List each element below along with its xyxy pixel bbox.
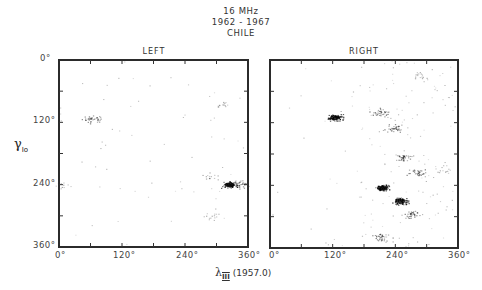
x-axis-subscript: III [222,273,230,281]
right-x-tick-360: 360° [448,250,470,260]
right-x-tick-120: 120° [324,250,346,260]
x-axis-symbol: λ [215,266,222,279]
left-x-tick-0: 0° [55,250,66,260]
left-x-tick-120: 120° [113,250,135,260]
right-panel-data [272,61,455,249]
right-x-tick-240: 240° [386,250,408,260]
y-axis-subscript: Io [22,146,28,154]
right-x-tick-0: 0° [269,250,280,260]
x-axis-label: λIII (1957.0) [215,266,271,281]
left-panel-data [53,61,249,247]
left-panel-frame [59,60,248,247]
left-x-tick-360: 360° [238,250,260,260]
y-tick-0: 0° [40,53,51,63]
y-tick-120: 120° [33,115,55,125]
y-axis-symbol: γ [14,136,22,151]
left-x-tick-240: 240° [176,250,198,260]
plot-canvas [0,0,482,290]
y-tick-240: 240° [33,178,55,188]
y-tick-360: 360° [33,240,55,250]
x-axis-epoch: (1957.0) [233,268,272,278]
axis-ticks [59,60,458,248]
y-axis-label: γIo [14,136,28,154]
right-panel-frame [270,60,458,248]
